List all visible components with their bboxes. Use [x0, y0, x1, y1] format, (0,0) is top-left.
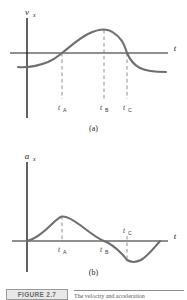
chart-b-tick-tc-sub: C — [128, 230, 132, 236]
chart-a-tick-ta: t — [58, 103, 61, 112]
caption-divider-rule — [74, 290, 184, 291]
chart-a-tick-tc: t — [123, 103, 126, 112]
chart-b-tick-tc: t — [123, 226, 126, 235]
chart-b-tick-tb-sub: B — [105, 249, 109, 255]
figure-number-tag: FIGURE 2.7 — [6, 289, 68, 300]
chart-panel-b: a x t t A t B t C — [0, 140, 187, 285]
chart-panel-a: v x t t A t B t C — [0, 0, 187, 140]
chart-b-y-axis-label-sub: x — [32, 156, 36, 162]
chart-b-tick-ta: t — [58, 245, 61, 254]
chart-b-tick-ta-sub: A — [63, 249, 67, 255]
chart-a-tick-tb-sub: B — [105, 107, 109, 113]
panel-a-caption: (a) — [0, 124, 187, 133]
figure-caption-text: The velocity and acceleration — [74, 293, 186, 300]
figure-container: v x t t A t B t C (a) a x — [0, 0, 187, 300]
chart-a-velocity-curve — [18, 30, 166, 73]
chart-b-y-axis-label: a — [25, 151, 30, 161]
chart-a-tick-tc-sub: C — [128, 107, 132, 113]
chart-a-y-axis-label: v — [25, 7, 29, 17]
chart-a-svg: v x t t A t B t C — [0, 0, 187, 140]
chart-a-y-axis-label-sub: x — [32, 12, 36, 18]
chart-b-svg: a x t t A t B t C — [0, 140, 187, 285]
figure-caption-bar: FIGURE 2.7 The velocity and acceleration — [0, 288, 187, 300]
chart-a-x-axis-label: t — [174, 43, 177, 53]
chart-b-x-axis-label: t — [174, 231, 177, 241]
panel-b-caption: (b) — [0, 268, 187, 277]
chart-b-acceleration-curve — [27, 216, 160, 261]
chart-a-tick-ta-sub: A — [63, 107, 67, 113]
chart-a-tick-tb: t — [100, 103, 103, 112]
chart-b-tick-tb: t — [100, 245, 103, 254]
